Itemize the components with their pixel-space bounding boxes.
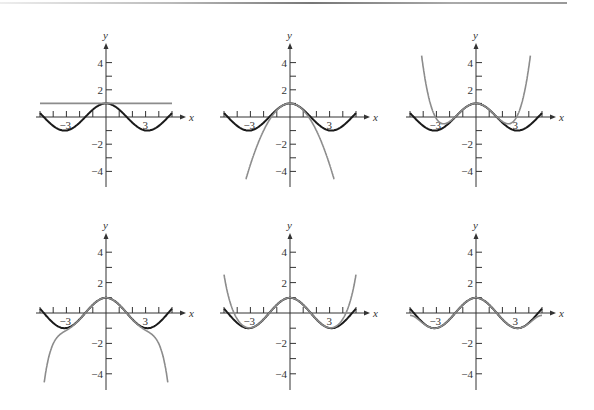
y-tick-label: −4 <box>461 368 473 380</box>
x-axis-arrow-icon <box>550 311 556 316</box>
y-tick-label: 4 <box>468 246 474 258</box>
y-tick-label: −2 <box>461 337 473 349</box>
y-tick-label: 2 <box>468 277 474 289</box>
y-axis-arrow-icon <box>474 233 479 239</box>
x-tick-label: 3 <box>513 315 519 327</box>
x-axis-label: x <box>558 307 564 319</box>
x-tick-label: −3 <box>429 315 441 327</box>
chart-panel-6: xy−3342−2−4 <box>0 0 594 410</box>
y-axis-label: y <box>472 219 478 231</box>
